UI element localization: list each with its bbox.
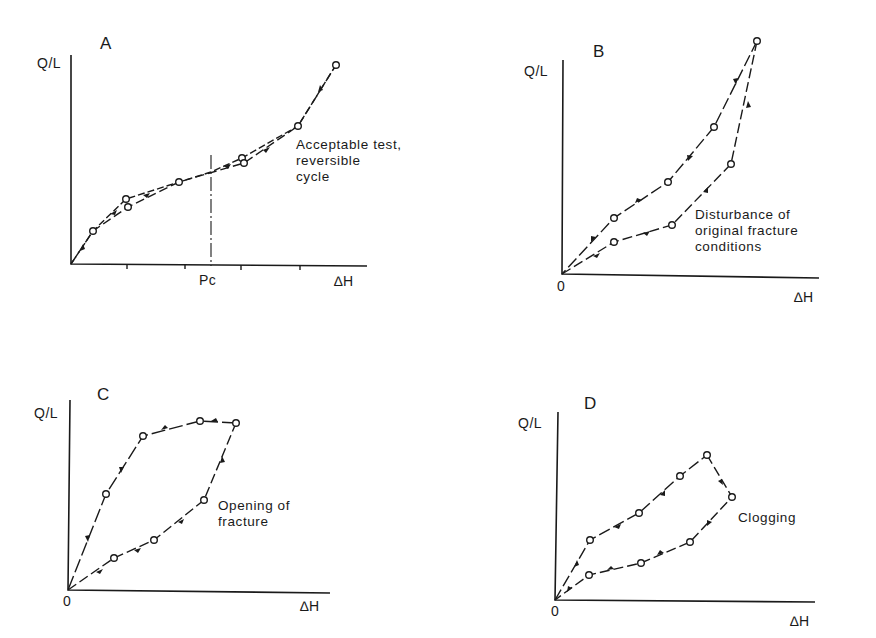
panel-a-arrows (80, 85, 323, 251)
panel-c-letter: C (97, 385, 110, 405)
panel-b-letter: B (593, 42, 605, 62)
panel-d-plot (555, 412, 815, 602)
panel-a-annotation: Acceptable test, reversible cycle (296, 137, 402, 185)
panel-a-letter: A (100, 34, 112, 54)
panel-d-loading-curve (555, 455, 707, 600)
panel-b-annotation: Disturbance of original fracture conditi… (695, 207, 798, 255)
panel-c-y-axis-label: Q/L (34, 405, 58, 421)
panel-c-plot (68, 400, 330, 593)
panel-b-y-axis-label: Q/L (524, 63, 548, 79)
panel-c-annotation: Opening of fracture (218, 498, 290, 530)
panel-a-y-axis-label: Q/L (37, 55, 61, 71)
panel-d-x-axis-label: ∆H (790, 613, 810, 629)
panel-d-y-axis-label: Q/L (518, 415, 542, 431)
panel-c-unloading-curve (68, 421, 236, 590)
panel-c-data-points (103, 418, 240, 562)
panel-d-origin-label: 0 (551, 603, 559, 619)
panel-d-annotation: Clogging (738, 510, 796, 526)
panel-b-x-axis-label: ∆H (794, 289, 814, 305)
panel-c-origin-label: 0 (63, 593, 71, 609)
panel-d-unloading-curve (555, 455, 732, 600)
panel-d-data-points (586, 452, 736, 579)
figure-canvas (0, 0, 876, 638)
panel-c-loading-curve (68, 423, 236, 590)
panel-a-pc-label: Pc (199, 272, 216, 288)
panel-d-letter: D (584, 394, 597, 414)
panel-c-x-axis-label: ∆H (300, 598, 320, 614)
panel-b-origin-label: 0 (557, 278, 565, 294)
panel-a-x-axis-label: ∆H (334, 273, 354, 289)
